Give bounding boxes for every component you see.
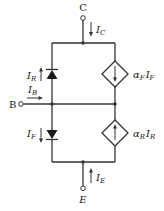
alpha-r-ir-label: αRIR	[133, 128, 156, 141]
ic-label: IC	[95, 24, 106, 37]
ib-arrow-head-icon	[39, 96, 44, 100]
collector-terminal: C	[79, 2, 87, 43]
base-label: B	[9, 99, 16, 110]
collector-current-arrow: IC	[89, 22, 106, 37]
reverse-diode	[46, 70, 58, 80]
emitter-terminal-circle	[81, 186, 86, 191]
arrow-down-icon	[113, 78, 117, 83]
ib-current-arrow: IB	[27, 84, 43, 100]
base-terminal: B	[9, 99, 23, 110]
base-terminal-circle	[19, 102, 24, 107]
collector-label: C	[79, 2, 87, 13]
ib-label: IB	[27, 84, 37, 97]
ir-current-arrow: IR	[26, 67, 43, 83]
forward-diode	[46, 130, 58, 140]
ie-current-arrow: IE	[89, 168, 105, 185]
arrow-up-icon	[113, 124, 117, 129]
alpha-f-if-label: αFIF	[133, 69, 156, 82]
top-node-dot	[81, 41, 85, 45]
if-label: IF	[26, 128, 37, 141]
ic-arrow-head-icon	[89, 32, 93, 37]
ebers-moll-circuit: C IC IR αFIF B IB	[0, 0, 164, 211]
ie-arrow-head-icon	[89, 168, 93, 173]
ir-label: IR	[26, 70, 37, 83]
ir-arrow-head-icon	[39, 67, 43, 72]
dependent-source-reverse	[102, 120, 128, 146]
if-current-arrow: IF	[26, 128, 43, 143]
emitter-label: E	[78, 194, 87, 205]
if-arrow-head-icon	[39, 139, 43, 144]
dependent-source-forward	[102, 61, 128, 87]
collector-terminal-circle	[81, 16, 86, 21]
emitter-terminal: E	[78, 162, 87, 205]
ie-label: IE	[95, 172, 105, 185]
reverse-diode-triangle-icon	[47, 70, 58, 79]
forward-diode-triangle-icon	[47, 130, 58, 139]
